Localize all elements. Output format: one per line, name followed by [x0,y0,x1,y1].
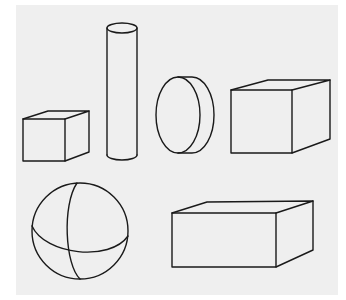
sphere-shape [32,183,128,279]
cylinder-shape [107,23,137,160]
geometric-solids-figure [0,0,346,300]
small-cube-shape [23,111,89,161]
rectangular-box-shape [172,201,313,267]
disk-shape [156,77,214,153]
large-cube-shape [231,80,330,153]
